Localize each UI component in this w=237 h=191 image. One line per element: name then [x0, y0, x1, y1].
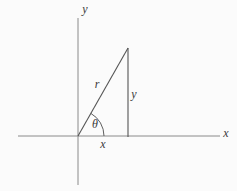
- adjacent-side-label: x: [99, 137, 106, 151]
- opposite-side-label: y: [130, 87, 137, 101]
- hypotenuse-line: [78, 48, 128, 136]
- figure-canvas: y x r y θ x: [0, 0, 237, 191]
- theta-label: θ: [92, 117, 98, 131]
- y-axis-label: y: [81, 2, 88, 16]
- x-axis-label: x: [222, 126, 229, 140]
- hypotenuse-label: r: [95, 77, 100, 91]
- triangle-diagram: y x r y θ x: [0, 0, 237, 191]
